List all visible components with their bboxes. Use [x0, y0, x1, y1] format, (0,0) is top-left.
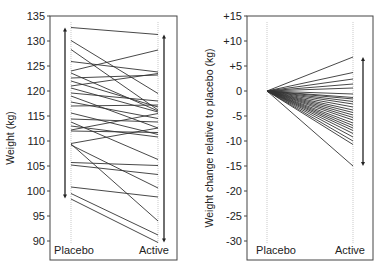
svg-text:135: 135	[27, 10, 45, 22]
right-x-label-placebo: Placebo	[256, 244, 296, 256]
svg-text:-15: -15	[226, 160, 242, 172]
left-x-label-active: Active	[139, 244, 169, 256]
range-arrow	[361, 57, 365, 166]
svg-text:+10: +10	[223, 35, 242, 47]
svg-text:0: 0	[236, 85, 242, 97]
svg-text:-30: -30	[226, 235, 242, 247]
svg-text:110: 110	[27, 135, 45, 147]
svg-text:-25: -25	[226, 210, 242, 222]
chart-figure: 9095100105110115120125130135 Weight (kg)…	[0, 0, 381, 273]
left-x-label-placebo: Placebo	[54, 244, 94, 256]
svg-text:-5: -5	[232, 110, 242, 122]
svg-text:115: 115	[27, 110, 45, 122]
right-y-axis-title: Weight change relative to placebo (kg)	[203, 49, 215, 228]
svg-text:125: 125	[27, 60, 45, 72]
svg-text:100: 100	[27, 185, 45, 197]
svg-text:-20: -20	[226, 185, 242, 197]
svg-text:120: 120	[27, 85, 45, 97]
right-panel-relative-change: +15+10+50-5-10-15-20-25-30 Weight change…	[203, 10, 373, 260]
right-plot-frame	[247, 16, 373, 260]
svg-text:90: 90	[33, 235, 45, 247]
change-lines	[267, 57, 353, 166]
range-arrows	[63, 28, 166, 243]
svg-text:-10: -10	[226, 135, 242, 147]
subject-lines	[71, 28, 158, 243]
svg-text:+5: +5	[229, 60, 242, 72]
right-y-axis-ticks: +15+10+50-5-10-15-20-25-30	[223, 10, 247, 247]
right-x-label-active: Active	[335, 244, 365, 256]
svg-text:95: 95	[33, 210, 45, 222]
svg-text:105: 105	[27, 160, 45, 172]
svg-text:+15: +15	[223, 10, 242, 22]
left-y-axis-title: Weight (kg)	[4, 111, 16, 165]
left-y-axis-ticks: 9095100105110115120125130135	[27, 10, 50, 247]
left-panel-absolute-weight: 9095100105110115120125130135 Weight (kg)…	[4, 10, 177, 260]
svg-text:130: 130	[27, 35, 45, 47]
